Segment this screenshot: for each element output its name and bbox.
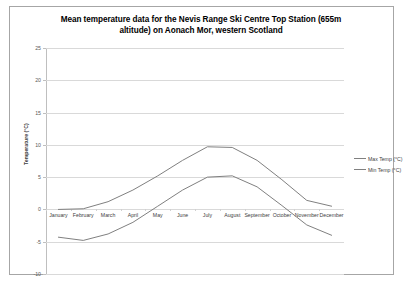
y-axis-tick-label: 5 <box>38 174 41 180</box>
series-line-max-temp <box>58 147 331 210</box>
gridline <box>46 274 344 275</box>
legend-item-label: Max Temp (°C) <box>368 156 403 162</box>
series-line-min-temp <box>58 176 331 241</box>
y-axis-tick-label: 25 <box>35 45 41 51</box>
y-axis-tick-label: -5 <box>36 239 41 245</box>
chart-container: Mean temperature data for the Nevis Rang… <box>9 6 394 275</box>
plot-area: 2520151050-5-10 JanuaryFebruaryMarchApri… <box>46 48 344 274</box>
y-axis-tick-label: 10 <box>35 142 41 148</box>
y-axis-tick-label: 15 <box>35 110 41 116</box>
legend-line-swatch-icon <box>354 169 366 170</box>
chart-legend: Max Temp (°C)Min Temp (°C) <box>354 155 402 177</box>
y-axis-title: Temperature (°C) <box>23 123 29 165</box>
y-axis-tick-label: 0 <box>38 206 41 212</box>
plot-inner: 2520151050-5-10 JanuaryFebruaryMarchApri… <box>46 48 344 274</box>
chart-title: Mean temperature data for the Nevis Rang… <box>36 14 366 36</box>
y-axis-tick-label: 20 <box>35 77 41 83</box>
series-lines <box>46 48 344 274</box>
legend-line-swatch-icon <box>354 158 366 159</box>
chart-title-line-1: Mean temperature data for the Nevis Rang… <box>36 14 366 25</box>
y-axis-tick-label: -10 <box>34 271 42 277</box>
legend-item-label: Min Temp (°C) <box>368 167 401 173</box>
legend-item[interactable]: Max Temp (°C) <box>354 155 402 162</box>
chart-title-line-2: altitude) on Aonach Mor, western Scotlan… <box>36 25 366 36</box>
y-axis-tick-mark <box>43 274 46 275</box>
legend-item[interactable]: Min Temp (°C) <box>354 166 402 173</box>
